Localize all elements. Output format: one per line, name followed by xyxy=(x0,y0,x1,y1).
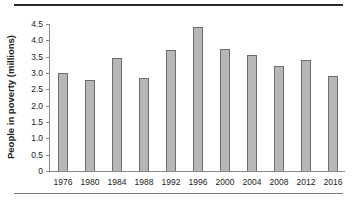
y-tick-label: 4.5 xyxy=(19,19,43,29)
y-tick xyxy=(46,24,49,25)
y-tick-label: 2.5 xyxy=(19,84,43,94)
x-tick-label: 2004 xyxy=(243,177,262,187)
bar-2000 xyxy=(220,49,230,172)
y-tick xyxy=(46,122,49,123)
bar-1988 xyxy=(139,78,149,171)
x-tick-label: 1980 xyxy=(81,177,100,187)
bar-2004 xyxy=(247,55,257,171)
x-tick-label: 1992 xyxy=(162,177,181,187)
x-tick-label: 2000 xyxy=(216,177,235,187)
top-rule xyxy=(14,4,343,6)
y-tick xyxy=(46,73,49,74)
x-tick-label: 2016 xyxy=(324,177,343,187)
y-tick-label: 3.0 xyxy=(19,68,43,78)
x-axis-line xyxy=(49,171,345,172)
y-tick-label: 3.5 xyxy=(19,52,43,62)
y-tick xyxy=(46,40,49,41)
x-tick-label: 1976 xyxy=(54,177,73,187)
plot-area: 00.51.01.52.02.53.03.54.04.5197619801984… xyxy=(49,24,345,171)
bar-2016 xyxy=(328,76,338,171)
y-tick-label: 0 xyxy=(19,166,43,176)
x-tick-label: 2012 xyxy=(297,177,316,187)
y-tick-label: 4.0 xyxy=(19,35,43,45)
y-axis-line xyxy=(49,24,50,172)
bar-2012 xyxy=(301,60,311,171)
x-tick-label: 1996 xyxy=(189,177,208,187)
y-tick-label: 0.5 xyxy=(19,150,43,160)
x-tick-label: 2008 xyxy=(270,177,289,187)
x-tick-label: 1984 xyxy=(108,177,127,187)
bar-1984 xyxy=(112,58,122,171)
bar-1976 xyxy=(58,73,68,171)
y-tick-label: 1.0 xyxy=(19,133,43,143)
y-tick xyxy=(46,155,49,156)
y-tick-label: 2.0 xyxy=(19,101,43,111)
y-tick xyxy=(46,171,49,172)
y-tick xyxy=(46,57,49,58)
y-tick xyxy=(46,138,49,139)
y-tick xyxy=(46,106,49,107)
bar-2008 xyxy=(274,66,284,171)
y-tick xyxy=(46,89,49,90)
y-tick-label: 1.5 xyxy=(19,117,43,127)
bar-1980 xyxy=(85,80,95,171)
bar-1992 xyxy=(166,50,176,171)
bar-1996 xyxy=(193,27,203,171)
bottom-rule xyxy=(14,193,343,194)
y-axis-label: People in poverty (millions) xyxy=(5,35,16,159)
x-tick-label: 1988 xyxy=(135,177,154,187)
